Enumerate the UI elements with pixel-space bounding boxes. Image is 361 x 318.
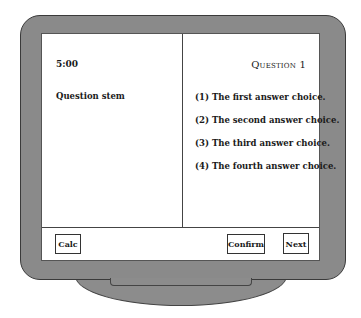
monitor-stand-slot <box>110 278 252 286</box>
question-stem: Question stem <box>56 92 125 101</box>
next-button[interactable]: Next <box>283 233 309 254</box>
vertical-divider <box>182 34 183 227</box>
monitor-screen: 5:00 Question stem Question 1 (1) The fi… <box>41 33 320 261</box>
answer-choice-1[interactable]: (1) The first answer choice. <box>195 93 326 102</box>
calc-button[interactable]: Calc <box>55 234 81 254</box>
timer: 5:00 <box>56 60 78 69</box>
confirm-button[interactable]: Confirm <box>227 234 265 254</box>
horizontal-divider <box>42 227 319 228</box>
answer-choice-4[interactable]: (4) The fourth answer choice. <box>195 162 336 171</box>
answer-choice-2[interactable]: (2) The second answer choice. <box>195 116 339 125</box>
question-number: Question 1 <box>251 60 306 70</box>
answer-choice-3[interactable]: (3) The third answer choice. <box>195 139 330 148</box>
